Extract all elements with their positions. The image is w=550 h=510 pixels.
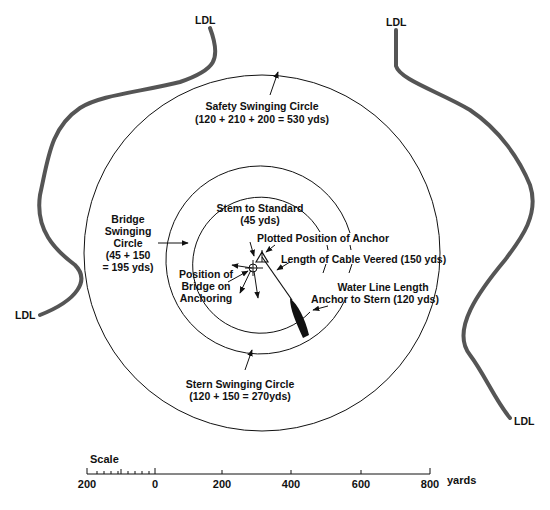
waterline-label-1: Water Line Length [337,281,428,293]
stem-leader-arrow [250,242,254,256]
anchoring-diagram: LDL LDL LDL LDL [0,0,550,510]
bridge-position-label-1: Position of [179,268,234,280]
ldl-label-top-left: LDL [195,14,216,26]
scale-title: Scale [90,453,119,465]
waterline-label-2: Anchor to Stern (120 yds) [311,293,439,305]
safety-circle-formula: (120 + 210 + 200 = 530 yds) [195,113,329,125]
bridge-circle-formula-2: = 195 yds) [102,261,153,273]
ldl-label-right: LDL [514,415,535,427]
waterline-leader-arrow [313,306,328,310]
bridge-circle-label-1: Bridge [111,213,144,225]
arc-tick [349,264,352,273]
stern-circle-label: Stern Swinging Circle [186,378,295,390]
scale-unit: yards [447,474,476,486]
swing-direction-arrows [232,265,258,298]
scale-tick-label: 400 [282,478,300,490]
arc-tick [323,264,326,273]
ship-icon [290,298,309,338]
scale-tick-label: 800 [421,478,439,490]
bridge-position-label-2: Bridge on [182,280,231,292]
plotted-anchor-label: Plotted Position of Anchor [257,232,389,244]
bridge-circle-label-2: Swinging [105,225,152,237]
scale-tick-label: 0 [152,478,158,490]
cable-veered-label: Length of Cable Veered (150 yds) [281,253,446,265]
bridge-circle-label-3: Circle [113,237,142,249]
bridge-position-label-3: Anchoring [180,292,233,304]
anchor-leader-arrow [266,245,275,252]
stem-to-standard-label: Stem to Standard [217,202,304,214]
stern-circle-formula: (120 + 150 = 270yds) [189,390,291,402]
stem-to-standard-value: (45 yds) [240,214,280,226]
arc-tick [350,245,351,250]
safety-circle-label: Safety Swinging Circle [205,100,318,112]
arc-tick [327,245,328,250]
bridge-circle-formula-1: (45 + 150 [106,249,151,261]
ldl-label-top-right: LDL [386,16,407,28]
scale-bar: Scale 200 0 200 400 600 800 yards [78,453,477,490]
ldl-label-left: LDL [15,309,36,321]
shoreline-right [396,30,533,418]
scale-tick-label: 200 [78,478,96,490]
scale-tick-label: 600 [352,478,370,490]
scale-tick-label: 200 [213,478,231,490]
